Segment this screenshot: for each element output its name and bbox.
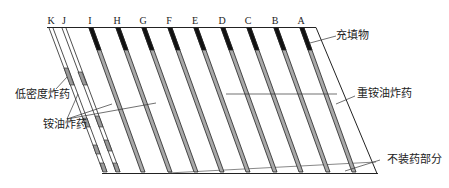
holes-main bbox=[89, 28, 356, 172]
annotation-heavy-anfo: 重铵油炸药 bbox=[357, 88, 412, 100]
hole-A-stemming bbox=[300, 28, 312, 50]
hole-B-stemming bbox=[274, 28, 286, 50]
hole-H-stemming bbox=[116, 28, 128, 50]
hole-J-anfo-1 bbox=[95, 116, 103, 127]
hole-label-B: B bbox=[272, 16, 279, 26]
hole-label-J: J bbox=[62, 16, 66, 26]
hole-label-D: D bbox=[218, 16, 225, 26]
annotation-low-density: 低密度炸药 bbox=[15, 89, 70, 101]
hole-label-E: E bbox=[192, 16, 198, 26]
blast-hole-diagram: K J I H G F E D C B A 充填物 重铵油炸药 低密度炸药 铵油… bbox=[0, 0, 449, 188]
hole-label-A: A bbox=[297, 16, 304, 26]
hole-label-C: C bbox=[245, 16, 252, 26]
hole-I-stemming bbox=[89, 28, 101, 50]
hole-J-low-density bbox=[78, 72, 87, 85]
hole-F-stemming bbox=[168, 28, 180, 50]
hole-E-stemming bbox=[194, 28, 206, 50]
hole-C-stemming bbox=[247, 28, 259, 50]
hole-G-stemming bbox=[142, 28, 154, 50]
leader-stemming bbox=[310, 36, 336, 43]
hole-K-low-density bbox=[64, 68, 74, 85]
hole-label-F: F bbox=[166, 16, 172, 26]
hole-label-H: H bbox=[113, 16, 120, 26]
annotation-stemming: 充填物 bbox=[336, 30, 369, 42]
hole-label-G: G bbox=[139, 16, 146, 26]
hole-D-stemming bbox=[221, 28, 233, 50]
annotation-uncharged: 不装药部分 bbox=[387, 154, 442, 166]
hole-J-anfo-2 bbox=[104, 140, 112, 151]
hole-label-I: I bbox=[88, 16, 91, 26]
annotation-anfo: 铵油炸药 bbox=[43, 119, 87, 131]
hole-label-K: K bbox=[47, 16, 54, 26]
leader-anfo-2 bbox=[67, 104, 112, 119]
